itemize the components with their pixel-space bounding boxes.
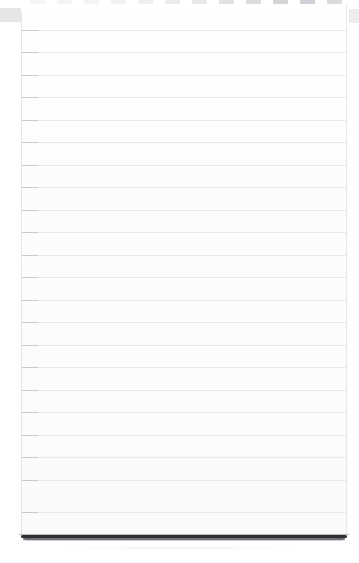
bottom-edge-fade — [25, 540, 343, 541]
corner-shadow-right — [349, 9, 359, 23]
page-edge-left — [21, 12, 22, 536]
notepad-page — [21, 4, 348, 537]
corner-shadow-left — [0, 8, 21, 22]
notepad-photo-scene — [0, 0, 359, 563]
notepad-bottom-edge — [19, 534, 349, 541]
surface-smudge — [70, 546, 290, 550]
paper-sheen — [21, 4, 348, 537]
page-edge-right — [346, 4, 347, 535]
